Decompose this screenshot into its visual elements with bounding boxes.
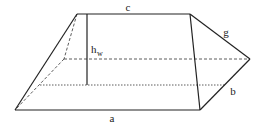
label-a: a [110, 112, 115, 124]
label-c: c [126, 1, 131, 13]
label-b: b [230, 85, 236, 97]
edge-right-front [190, 14, 200, 110]
label-h-subscript: w [97, 49, 103, 58]
edge-b [200, 59, 250, 110]
edge-left-front [15, 14, 77, 110]
hidden-edge-diagonal [15, 59, 64, 110]
edge-g [190, 14, 250, 59]
diagram-canvas: c a g b h w [0, 0, 263, 127]
hidden-edge-left [64, 14, 77, 59]
label-g: g [223, 26, 229, 38]
